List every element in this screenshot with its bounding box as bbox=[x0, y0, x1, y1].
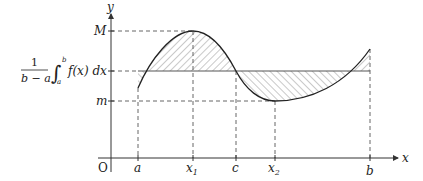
tick-label-b: b bbox=[366, 164, 374, 178]
fraction-numerator: 1 bbox=[31, 56, 38, 69]
guide-lines bbox=[111, 31, 370, 158]
y-axis-label: y bbox=[106, 0, 114, 14]
tick-label-c: c bbox=[232, 161, 239, 175]
tick-label-x1: x1 bbox=[186, 161, 198, 177]
tick-label-a: a bbox=[134, 161, 141, 175]
x-axis-label: x bbox=[402, 151, 409, 165]
integrand: f(x) dx bbox=[67, 64, 107, 78]
origin-label: O bbox=[98, 161, 108, 175]
hatch-above-region bbox=[146, 31, 236, 71]
tick-marks bbox=[108, 31, 370, 161]
min-label: m bbox=[96, 94, 107, 108]
max-label: M bbox=[93, 24, 107, 38]
mean-value-diagram: y x O M m a x1 c x2 b 1 b − a ∫ b a f(x)… bbox=[0, 0, 423, 181]
fraction-denominator: b − a bbox=[21, 72, 51, 85]
integral-upper-limit: b bbox=[62, 56, 67, 64]
mean-value-label: 1 b − a ∫ b a f(x) dx bbox=[21, 56, 107, 86]
tick-label-x2: x2 bbox=[268, 161, 280, 177]
hatch-below-region bbox=[236, 71, 352, 101]
integral-lower-limit: a bbox=[57, 78, 61, 86]
